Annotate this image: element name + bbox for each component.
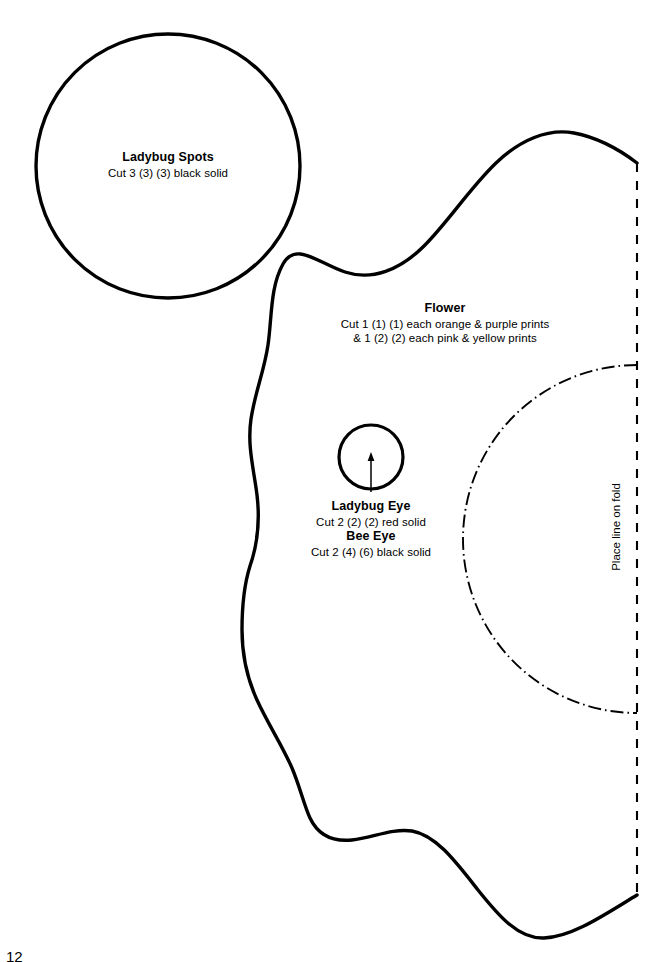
- ladybug-spots-instructions: Cut 3 (3) (3) black solid: [38, 166, 298, 180]
- flower-instructions-line-1: Cut 1 (1) (1) each orange & purple print…: [310, 317, 580, 331]
- ladybug-spots-title: Ladybug Spots: [38, 150, 298, 166]
- flower-instructions-line-2: & 1 (2) (2) each pink & yellow prints: [310, 331, 580, 345]
- fold-label-text: Place line on fold: [610, 483, 622, 571]
- eye-label: Ladybug Eye Cut 2 (2) (2) red solid Bee …: [281, 499, 461, 559]
- page-number: 12: [6, 949, 23, 962]
- ladybug-eye-title: Ladybug Eye: [281, 499, 461, 515]
- flower-title: Flower: [310, 301, 580, 317]
- fold-label: Place line on fold: [609, 467, 623, 587]
- ladybug-eye-instructions: Cut 2 (2) (2) red solid: [281, 515, 461, 529]
- pattern-sheet: Ladybug Spots Cut 3 (3) (3) black solid …: [0, 0, 668, 962]
- bee-eye-instructions: Cut 2 (4) (6) black solid: [281, 545, 461, 559]
- ladybug-spots-label: Ladybug Spots Cut 3 (3) (3) black solid: [38, 150, 298, 180]
- eye-grain-arrow: [368, 452, 375, 492]
- flower-label: Flower Cut 1 (1) (1) each orange & purpl…: [310, 301, 580, 346]
- bee-eye-title: Bee Eye: [281, 529, 461, 545]
- pattern-drawing: [0, 0, 668, 962]
